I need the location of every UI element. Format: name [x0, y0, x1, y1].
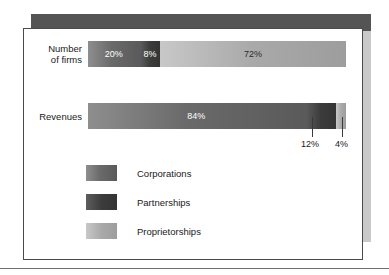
bar-row-revenues: Revenues 84% 12% 4%	[24, 103, 364, 129]
legend-swatch-proprietorships	[86, 223, 117, 239]
bar-segment-proprietorships[interactable]	[336, 103, 346, 129]
bar-segment-partnerships[interactable]	[305, 103, 336, 129]
bar-label-revenues: Revenues	[24, 111, 82, 122]
legend-label-partnerships: Partnerships	[137, 197, 190, 208]
bar-segment-value: 72%	[244, 49, 262, 59]
callout-label-4: 4%	[335, 139, 348, 149]
bar-segment-corporations[interactable]: 20%	[88, 41, 140, 67]
bar-row-number-of-firms: Number of firms 20% 8% 72%	[24, 41, 364, 67]
legend-label-corporations: Corporations	[137, 168, 191, 179]
legend-label-proprietorships: Proprietorships	[137, 226, 201, 237]
callout-leader-line-4	[342, 117, 343, 137]
bar-segment-partnerships[interactable]: 8%	[140, 41, 161, 67]
bar-segment-proprietorships[interactable]: 72%	[160, 41, 346, 67]
bar-track-number-of-firms: 20% 8% 72%	[88, 41, 346, 67]
callout-label-12: 12%	[301, 139, 319, 149]
legend-item-partnerships[interactable]: Partnerships	[86, 194, 190, 210]
figure-container: Number of firms 20% 8% 72% Revenues 84%	[0, 0, 389, 275]
bar-track-revenues: 84%	[88, 103, 346, 129]
bottom-divider-rule	[0, 268, 389, 269]
bar-segment-value: 20%	[105, 49, 123, 59]
chart-panel: Number of firms 20% 8% 72% Revenues 84%	[23, 28, 363, 260]
legend-swatch-partnerships	[86, 194, 117, 210]
callout-leader-line-12	[312, 117, 313, 137]
legend-swatch-corporations	[86, 165, 117, 181]
legend: Corporations Partnerships Proprietorship…	[86, 165, 336, 245]
bar-segment-value: 84%	[187, 111, 205, 121]
bar-segment-corporations[interactable]: 84%	[88, 103, 305, 129]
bar-label-number-of-firms: Number of firms	[30, 43, 82, 65]
legend-item-proprietorships[interactable]: Proprietorships	[86, 223, 201, 239]
legend-item-corporations[interactable]: Corporations	[86, 165, 191, 181]
bar-segment-value: 8%	[143, 49, 156, 59]
